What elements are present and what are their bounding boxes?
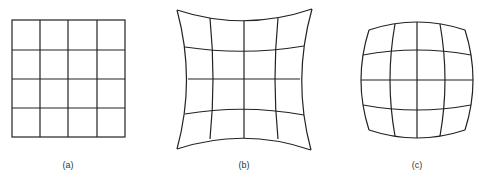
panel-label-a: (a) bbox=[63, 160, 74, 170]
distortion-figure: (a) (b) (c) bbox=[0, 0, 479, 180]
panel-label-b: (b) bbox=[239, 160, 250, 170]
grid-drawings bbox=[0, 0, 479, 180]
grid-c-barrel bbox=[361, 22, 473, 138]
grid-a-square bbox=[12, 20, 125, 137]
panel-label-c: (c) bbox=[412, 160, 423, 170]
grid-b-pincushion bbox=[177, 9, 312, 150]
